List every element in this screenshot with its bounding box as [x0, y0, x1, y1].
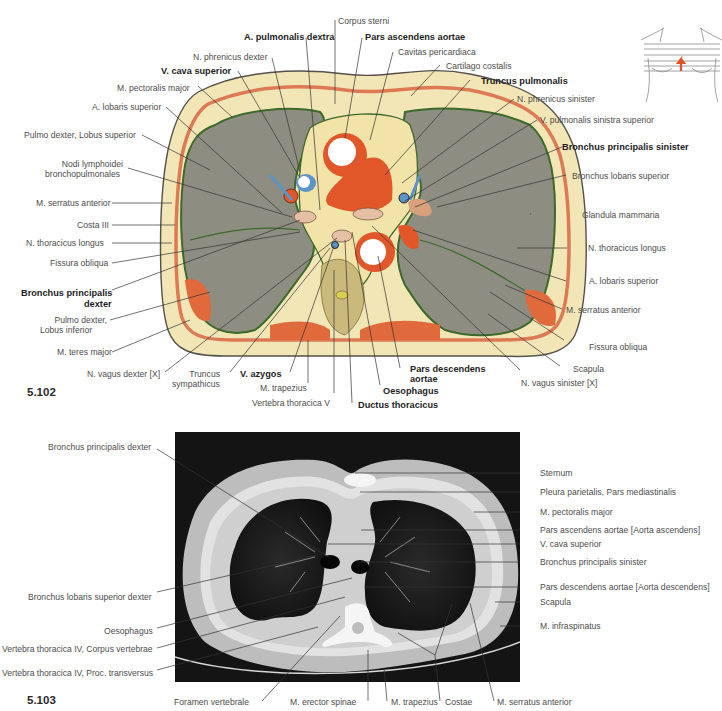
ct-label-m-infraspinatus: M. infraspinatus — [540, 621, 601, 631]
ct-label-scapula: Scapula — [540, 597, 571, 607]
ct-label-oesophagus: Oesophagus — [104, 626, 153, 636]
ct-label-v-cava-superior: V. cava superior — [540, 539, 601, 549]
ct-label-foramen-vertebrale: Foramen vertebrale — [174, 697, 249, 707]
ct-label-costae: Costae — [445, 697, 472, 707]
ct-label-bronchus-lobaris-superior-dexter: Bronchus lobaris superior dexter — [28, 592, 152, 602]
leader-lines-103 — [0, 0, 722, 711]
ct-label-m-pectoralis-major: M. pectoralis major — [540, 507, 613, 517]
ct-label-pars-descendens-aortae: Pars descendens aortae [Aorta descendens… — [540, 582, 710, 592]
figure-number-103: 5.103 — [27, 694, 56, 706]
ct-label-pars-ascendens-aortae: Pars ascendens aortae [Aorta ascendens] — [540, 525, 700, 535]
ct-label-m-trapezius: M. trapezius — [391, 697, 438, 707]
ct-label-bronchus-principalis-sinister: Bronchus principalis sinister — [540, 557, 647, 567]
ct-label-pleura-parietalis: Pleura parietalis, Pars mediastinalis — [540, 487, 676, 497]
ct-label-vertebra-proc-transversus: Vertebra thoracica IV, Proc. transversus — [2, 668, 153, 678]
ct-label-m-erector-spinae: M. erector spinae — [290, 697, 356, 707]
ct-label-vertebra-corpus: Vertebra thoracica IV, Corpus vertebrae — [2, 644, 153, 654]
ct-label-m-serratus-anterior: M. serratus anterior — [497, 697, 572, 707]
ct-label-bronchus-principalis-dexter: Bronchus principalis dexter — [48, 442, 151, 452]
ct-label-sternum: Sternum — [540, 468, 572, 478]
